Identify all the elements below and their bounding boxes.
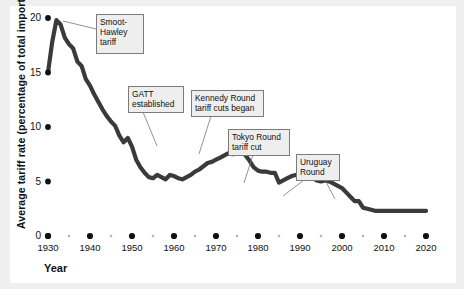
y-tick-dot-20 <box>45 15 51 21</box>
chart-figure: Average tariff rate (percentage of total… <box>0 0 464 289</box>
x-tick-label-1980: 1980 <box>241 242 275 253</box>
x-tick-dot-2010 <box>381 233 387 239</box>
y-tick-label-0: 0 <box>21 230 41 241</box>
annotation-tokyo-round: Tokyo Round tariff cut <box>228 129 290 156</box>
x-minor-tick-dot-1965 <box>194 235 197 238</box>
x-minor-tick-dot-2015 <box>404 235 407 238</box>
x-minor-tick-dot-1955 <box>152 235 155 238</box>
annotation-uruguay-round: Uruguay Round <box>296 154 340 181</box>
x-tick-label-2010: 2010 <box>367 242 401 253</box>
x-axis-title: Year <box>44 262 67 274</box>
annotation-kennedy-round: Kennedy Round tariff cuts began <box>191 90 264 117</box>
x-tick-dot-1950 <box>129 233 135 239</box>
x-tick-label-1970: 1970 <box>199 242 233 253</box>
x-tick-dot-1960 <box>171 233 177 239</box>
x-tick-label-1960: 1960 <box>157 242 191 253</box>
y-tick-dot-5 <box>45 179 51 185</box>
x-tick-dot-1980 <box>255 233 261 239</box>
y-tick-label-15: 15 <box>21 67 41 78</box>
x-tick-dot-1970 <box>213 233 219 239</box>
x-tick-dot-2020 <box>423 233 429 239</box>
x-tick-dot-1930 <box>45 233 51 239</box>
leader-uruguay-left <box>283 180 304 196</box>
x-tick-label-1930: 1930 <box>31 242 65 253</box>
x-minor-tick-dot-2005 <box>362 235 365 238</box>
leader-gatt <box>143 112 157 146</box>
x-tick-label-1950: 1950 <box>115 242 149 253</box>
x-minor-tick-dot-1985 <box>278 235 281 238</box>
annotation-gatt: GATT established <box>128 86 184 113</box>
y-tick-dot-10 <box>45 124 51 130</box>
y-tick-label-5: 5 <box>21 176 41 187</box>
x-tick-dot-1940 <box>87 233 93 239</box>
x-minor-tick-dot-1935 <box>68 235 71 238</box>
y-tick-label-10: 10 <box>21 121 41 132</box>
x-minor-tick-dot-1945 <box>110 235 113 238</box>
x-minor-tick-dot-1975 <box>236 235 239 238</box>
x-tick-dot-1990 <box>297 233 303 239</box>
x-tick-label-2020: 2020 <box>409 242 443 253</box>
x-tick-label-1990: 1990 <box>283 242 317 253</box>
x-tick-dot-2000 <box>339 233 345 239</box>
annotation-smoot-hawley: Smoot- Hawley tariff <box>96 14 144 54</box>
y-tick-label-20: 20 <box>21 12 41 23</box>
leader-kennedy <box>199 116 211 154</box>
x-tick-label-2000: 2000 <box>325 242 359 253</box>
leader-smoot-hawley <box>63 21 96 29</box>
x-tick-label-1940: 1940 <box>73 242 107 253</box>
x-minor-tick-dot-1995 <box>320 235 323 238</box>
y-axis-title: Average tariff rate (percentage of total… <box>15 0 27 229</box>
y-tick-dot-15 <box>45 70 51 76</box>
